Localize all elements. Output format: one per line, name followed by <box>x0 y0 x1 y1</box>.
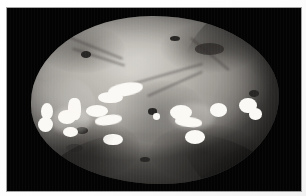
spot-center-dot <box>153 113 160 120</box>
moon-body <box>31 16 279 184</box>
groove-center <box>131 63 203 85</box>
crater-upper-right <box>195 43 225 55</box>
spot-right-rim-b <box>249 108 261 120</box>
spot-left-cluster-a <box>58 110 75 123</box>
mottle-light-upper-center <box>86 29 190 86</box>
spot-halo-right <box>170 103 215 130</box>
photographic-plate <box>7 8 301 191</box>
spot-left-mid <box>86 105 108 117</box>
spot-midleft-streak <box>95 113 123 127</box>
spot-midleft-lower <box>103 134 123 146</box>
spot-right-rim <box>239 98 256 113</box>
spot-left-cluster-c <box>63 127 78 137</box>
crater-center <box>148 108 158 115</box>
shading-top-left <box>31 16 120 83</box>
spot-right-cluster <box>210 103 227 116</box>
crater-lower-left <box>66 144 83 152</box>
shading-bottom-limb <box>46 130 274 184</box>
shading-right-limb <box>175 16 279 184</box>
spot-center-right-b <box>174 115 202 128</box>
groove-upper-left-b <box>72 48 124 67</box>
spot-left-rim-lower <box>38 117 53 132</box>
spot-left-rim-upper <box>41 103 53 120</box>
mottle-dark-upper-right <box>160 23 259 73</box>
mottle-dark-upper-left <box>41 26 125 73</box>
groove-center-b <box>147 71 202 97</box>
groove-upper-left <box>63 34 124 60</box>
crater-upper-left <box>81 51 91 58</box>
spot-halo-left <box>51 107 91 134</box>
mottle-light-left-limb <box>31 76 95 130</box>
moon-body-wrapper <box>31 16 279 184</box>
spot-left-cluster-b <box>68 98 80 120</box>
mottle-dark-center <box>115 80 204 144</box>
crater-left-lower <box>76 127 88 134</box>
spot-upper-streak-b <box>98 92 123 104</box>
mottle-light-band <box>66 90 240 134</box>
groove-right <box>190 37 229 70</box>
crater-right-limb <box>249 90 259 97</box>
figure-page: Grayscale spacecraft image of an irregul… <box>0 0 306 196</box>
spot-center-right <box>170 105 192 120</box>
spot-upper-streak <box>107 80 144 99</box>
mottle-dark-lower-right <box>150 124 259 181</box>
mottle-dark-lower-left <box>46 120 140 177</box>
crater-upper-mid <box>170 36 180 41</box>
spot-right-lower <box>185 130 205 143</box>
crater-lower-mid <box>140 157 150 162</box>
